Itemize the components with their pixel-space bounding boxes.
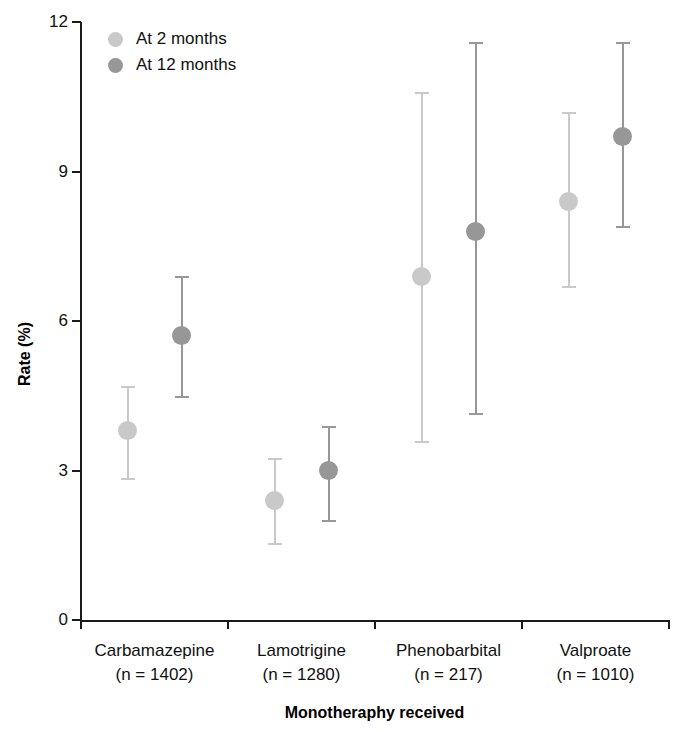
y-axis-tick-label-wrap: 12 [16,13,68,31]
y-axis-tick-label: 3 [26,462,68,479]
x-axis-tick-mark [668,620,670,629]
legend-item-label: At 2 months [136,29,227,49]
category-name: Phenobarbital [396,641,501,660]
error-bar-cap-lower [322,520,336,522]
data-point-marker [613,127,632,146]
error-bar-cap-lower [616,226,630,228]
legend: At 2 months At 12 months [108,26,236,78]
error-bar-cap-lower [415,441,429,443]
error-bar-cap-lower [562,286,576,288]
x-axis-tick-mark [227,620,229,629]
error-bar-cap-lower [121,478,135,480]
y-axis-tick-mark [72,470,81,472]
error-bar-cap-upper [616,42,630,44]
error-bar-cap-upper [121,386,135,388]
x-axis-tick-mark [374,620,376,629]
y-axis-tick-label-wrap: 0 [16,611,68,629]
legend-item-label: At 12 months [136,55,236,75]
data-point-marker [466,222,485,241]
x-axis-title: Monotheraphy received [80,704,669,722]
legend-item-at-12-months: At 12 months [108,52,236,78]
y-axis-tick-mark [72,171,81,173]
error-bar-cap-upper [469,42,483,44]
data-point-marker [412,267,431,286]
data-point-marker [172,326,191,345]
chart-container: Rate (%) Monotheraphy received 129630 Ca… [0,0,673,732]
error-bar-cap-upper [268,458,282,460]
y-axis-tick-label: 0 [26,611,68,628]
category-sample-size: (n = 1010) [522,663,669,687]
error-bar-cap-lower [175,396,189,398]
legend-item-at-2-months: At 2 months [108,26,236,52]
category-sample-size: (n = 1402) [81,663,228,687]
category-name: Carbamazepine [94,641,214,660]
x-axis-category-label: Phenobarbital(n = 217) [375,639,522,687]
error-bar-cap-lower [268,543,282,545]
data-point-marker [319,461,338,480]
data-point-marker [265,491,284,510]
y-axis-tick-mark [72,320,81,322]
category-name: Lamotrigine [257,641,346,660]
legend-marker-icon [108,58,123,73]
y-axis-tick-label-wrap: 9 [16,163,68,181]
x-axis-tick-mark [521,620,523,629]
error-bar-cap-upper [175,276,189,278]
category-sample-size: (n = 217) [375,663,522,687]
x-axis-category-label: Valproate(n = 1010) [522,639,669,687]
y-axis-tick-label: 6 [26,312,68,329]
error-bar-cap-lower [469,413,483,415]
x-axis-category-label: Carbamazepine(n = 1402) [81,639,228,687]
y-axis-tick-label-wrap: 3 [16,462,68,480]
category-name: Valproate [560,641,632,660]
error-bar-cap-upper [322,426,336,428]
y-axis-tick-mark [72,21,81,23]
x-axis-category-label: Lamotrigine(n = 1280) [228,639,375,687]
x-axis-tick-mark [80,620,82,629]
y-axis-tick-label: 12 [26,13,68,30]
error-bar-cap-upper [415,92,429,94]
y-axis-tick-label-wrap: 6 [16,312,68,330]
y-axis-tick-label: 9 [26,163,68,180]
data-point-marker [559,192,578,211]
legend-marker-icon [108,32,123,47]
category-sample-size: (n = 1280) [228,663,375,687]
error-bar-cap-upper [562,112,576,114]
data-point-marker [118,421,137,440]
